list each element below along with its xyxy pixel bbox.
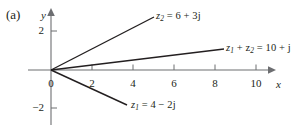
annotation-sum-operator: + z	[234, 42, 250, 53]
annotation-z1-plus-z2: z1 + z2 = 10 + j	[226, 43, 291, 54]
vector-z1-plus-z2	[51, 49, 224, 70]
annotation-sum-subscript-1: 1	[230, 46, 234, 55]
x-tick-label-10: 10	[246, 78, 266, 89]
vector-z2	[51, 17, 154, 70]
annotation-z1: z1 = 4 − 2j	[131, 100, 176, 111]
x-tick-marks	[92, 65, 256, 71]
y-axis-label: y	[41, 10, 46, 21]
argand-diagram-figure: (a) y x 0 2 4 6 8 10 2 −2 z2 = 6 + 3j z1…	[0, 0, 298, 131]
y-tick-label-2: 2	[22, 25, 44, 36]
annotation-z1-subscript: 1	[135, 103, 139, 112]
x-tick-label-8: 8	[205, 78, 225, 89]
x-axis-arrowhead	[268, 66, 276, 74]
annotation-z1-value: = 4 − 2j	[139, 99, 176, 110]
y-tick-label-minus-2: −2	[22, 102, 44, 113]
x-tick-label-2: 2	[82, 78, 102, 89]
x-tick-label-4: 4	[123, 78, 143, 89]
y-axis-arrowhead	[47, 8, 55, 16]
annotation-sum-subscript-2: 2	[250, 46, 254, 55]
annotation-z2-value: = 6 + 3j	[164, 10, 201, 21]
panel-label: (a)	[6, 8, 20, 21]
annotation-z2-subscript: 2	[160, 14, 164, 23]
x-axis-label: x	[276, 79, 281, 90]
x-tick-label-6: 6	[164, 78, 184, 89]
annotation-sum-value: = 10 + j	[254, 42, 291, 53]
annotation-z2: z2 = 6 + 3j	[156, 11, 201, 22]
x-tick-label-0: 0	[41, 78, 61, 89]
